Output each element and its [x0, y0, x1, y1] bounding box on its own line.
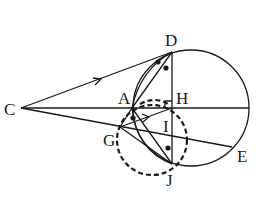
label-A: A — [118, 89, 131, 108]
dashed-arc-top — [140, 100, 168, 104]
label-D: D — [165, 31, 177, 50]
label-E: E — [237, 147, 247, 166]
label-G: G — [103, 131, 115, 150]
angle-dot — [165, 145, 170, 150]
label-J: J — [166, 171, 173, 190]
angle-dot — [130, 115, 135, 120]
label-I: I — [163, 117, 169, 136]
segment-CE — [21, 108, 232, 147]
angle-dot — [163, 65, 168, 70]
label-H: H — [176, 89, 188, 108]
label-C: C — [4, 100, 15, 119]
angle-dot — [155, 59, 160, 64]
geometry-diagram: C D A H I G E J — [0, 0, 263, 213]
